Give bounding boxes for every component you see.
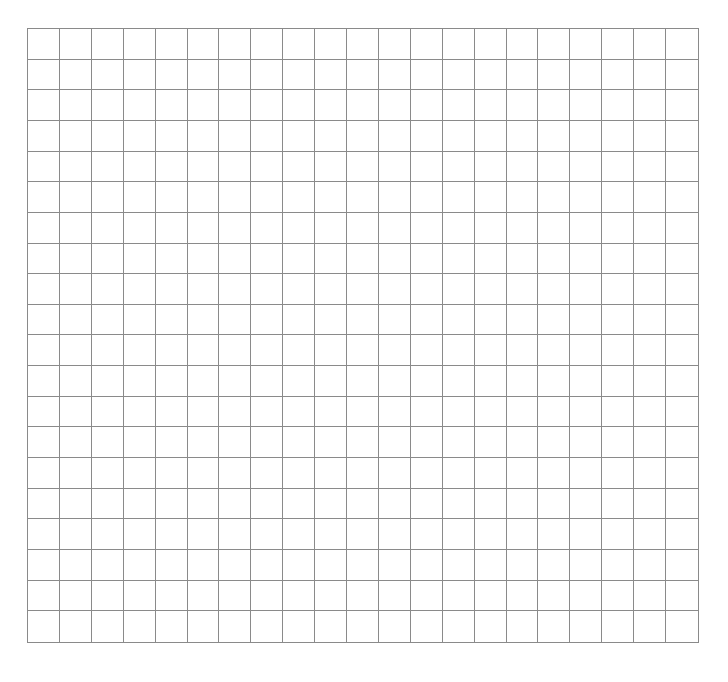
grid-cell bbox=[156, 397, 188, 428]
grid-cell bbox=[60, 335, 92, 366]
grid-cell bbox=[124, 397, 156, 428]
grid-cell bbox=[475, 611, 507, 642]
grid-cell bbox=[538, 152, 570, 183]
grid-cell bbox=[634, 489, 666, 520]
grid-cell bbox=[602, 60, 634, 91]
grid-cell bbox=[411, 519, 443, 550]
grid-cell bbox=[315, 182, 347, 213]
grid-cell bbox=[92, 60, 124, 91]
grid-cell bbox=[475, 458, 507, 489]
grid-cell bbox=[251, 90, 283, 121]
grid-cell bbox=[666, 274, 698, 305]
grid-cell bbox=[634, 581, 666, 612]
grid-cell bbox=[507, 152, 539, 183]
grid-cell bbox=[156, 29, 188, 60]
grid-cell bbox=[411, 121, 443, 152]
grid-cell bbox=[443, 274, 475, 305]
grid-cell bbox=[538, 489, 570, 520]
grid-cell bbox=[156, 305, 188, 336]
grid-cell bbox=[28, 611, 60, 642]
grid-cell bbox=[475, 519, 507, 550]
grid-cell bbox=[379, 121, 411, 152]
grid-cell bbox=[156, 182, 188, 213]
grid-cell bbox=[443, 29, 475, 60]
grid-cell bbox=[156, 458, 188, 489]
grid-cell bbox=[443, 182, 475, 213]
grid-cell bbox=[60, 581, 92, 612]
grid-cell bbox=[507, 519, 539, 550]
grid-cell bbox=[315, 366, 347, 397]
grid-cell bbox=[124, 519, 156, 550]
grid-cell bbox=[570, 458, 602, 489]
grid-cell bbox=[92, 121, 124, 152]
grid-cell bbox=[475, 427, 507, 458]
grid-cell bbox=[28, 581, 60, 612]
grid-cell bbox=[124, 305, 156, 336]
grid-cell bbox=[602, 182, 634, 213]
grid-cell bbox=[347, 581, 379, 612]
grid-cell bbox=[570, 305, 602, 336]
grid-cell bbox=[315, 550, 347, 581]
grid-cell bbox=[251, 458, 283, 489]
grid-cell bbox=[538, 29, 570, 60]
grid-cell bbox=[379, 152, 411, 183]
grid-cell bbox=[602, 366, 634, 397]
grid-cell bbox=[411, 335, 443, 366]
grid-cell bbox=[666, 550, 698, 581]
grid-cell bbox=[666, 335, 698, 366]
grid-cell bbox=[188, 274, 220, 305]
grid-cell bbox=[379, 489, 411, 520]
grid-cell bbox=[92, 274, 124, 305]
grid-cell bbox=[28, 213, 60, 244]
grid-cell bbox=[570, 244, 602, 275]
grid-cell bbox=[475, 550, 507, 581]
grid-cell bbox=[538, 581, 570, 612]
grid-cell bbox=[634, 519, 666, 550]
grid-cell bbox=[92, 550, 124, 581]
grid-cell bbox=[475, 335, 507, 366]
grid-cell bbox=[188, 244, 220, 275]
grid-cell bbox=[156, 611, 188, 642]
grid-cell bbox=[379, 366, 411, 397]
grid-cell bbox=[475, 121, 507, 152]
grid-cell bbox=[602, 274, 634, 305]
grid-cell bbox=[219, 305, 251, 336]
grid-cell bbox=[28, 550, 60, 581]
grid-cell bbox=[443, 519, 475, 550]
grid-cell bbox=[251, 366, 283, 397]
grid-cell bbox=[538, 213, 570, 244]
grid-cell bbox=[60, 152, 92, 183]
grid-cell bbox=[443, 213, 475, 244]
grid-cell bbox=[507, 305, 539, 336]
grid-cell bbox=[411, 611, 443, 642]
grid-cell bbox=[666, 121, 698, 152]
grid-cell bbox=[634, 305, 666, 336]
grid-cell bbox=[507, 581, 539, 612]
grid-cell bbox=[251, 274, 283, 305]
grid-cell bbox=[219, 121, 251, 152]
grid-cell bbox=[475, 60, 507, 91]
grid-cell bbox=[538, 519, 570, 550]
grid-cell bbox=[92, 427, 124, 458]
grid-cell bbox=[634, 121, 666, 152]
grid-cell bbox=[92, 244, 124, 275]
grid-cell bbox=[634, 611, 666, 642]
grid-cell bbox=[443, 305, 475, 336]
grid-cell bbox=[634, 60, 666, 91]
grid-cell bbox=[124, 121, 156, 152]
grid-cell bbox=[60, 29, 92, 60]
grid-cell bbox=[60, 121, 92, 152]
grid-cell bbox=[188, 121, 220, 152]
grid-cell bbox=[538, 366, 570, 397]
grid-cell bbox=[28, 274, 60, 305]
grid-cell bbox=[188, 427, 220, 458]
grid-cell bbox=[634, 244, 666, 275]
grid-cell bbox=[156, 213, 188, 244]
grid-cell bbox=[666, 581, 698, 612]
grid-cell bbox=[347, 274, 379, 305]
grid-cell bbox=[538, 550, 570, 581]
grid-cell bbox=[443, 121, 475, 152]
grid-cell bbox=[411, 305, 443, 336]
grid-cell bbox=[411, 182, 443, 213]
grid-cell bbox=[283, 90, 315, 121]
